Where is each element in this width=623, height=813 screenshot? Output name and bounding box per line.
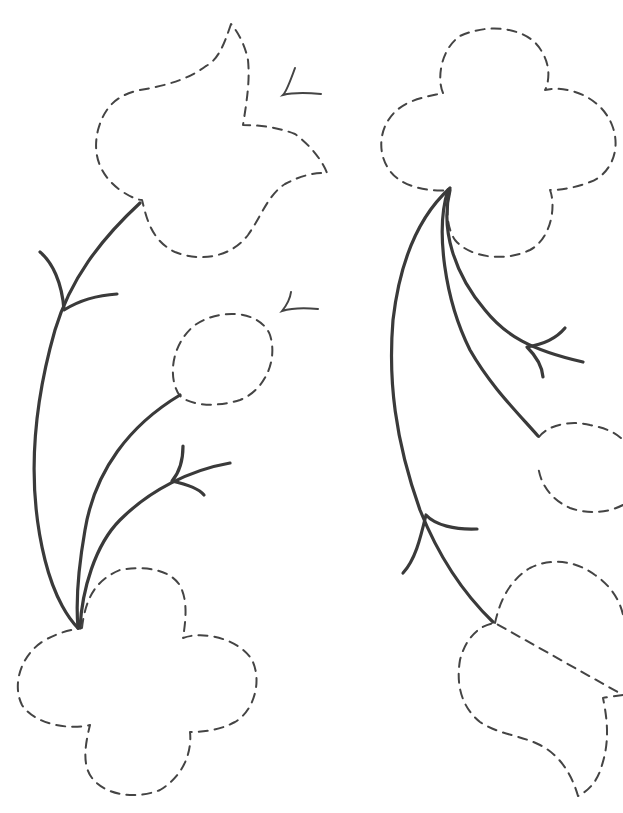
tick-top-right [283,68,321,95]
arrow-marks [40,252,565,573]
stems [34,188,583,628]
pattern-canvas [0,0,623,813]
mark-right-lower [403,515,477,573]
thin-marks [282,68,321,311]
tulip-top-left-outline [96,24,327,257]
stem-right-branch [447,190,583,362]
mark-left-upper [40,252,117,310]
stem-right-to-bud [442,190,538,436]
flower-bottom-left-outline [18,568,257,795]
bud-middle-left-outline [173,314,272,405]
dashed-shapes [18,24,623,796]
stem-left-long [34,203,140,628]
stem-left-branch [80,463,230,628]
tulip-bottom-right-outline [459,562,623,796]
flower-top-right-outline [381,29,615,257]
bud-middle-right-outline [538,423,623,512]
tick-middle-right [282,292,318,311]
